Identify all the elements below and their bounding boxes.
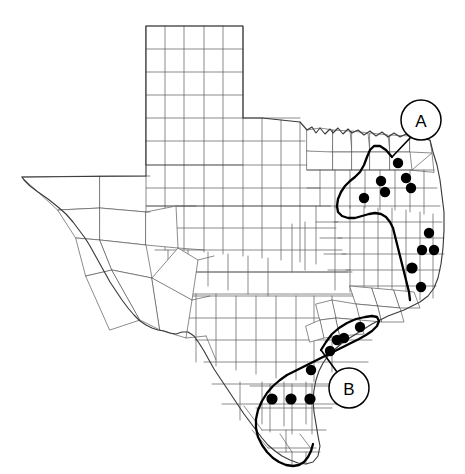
occurrence-dot	[359, 193, 369, 203]
occurrence-dot	[266, 393, 277, 404]
callout-b-label: B	[343, 380, 354, 399]
texas-distribution-map: A B	[0, 0, 465, 474]
callout-a-label: A	[415, 112, 427, 131]
occurrence-dot	[355, 322, 365, 332]
occurrence-dot	[306, 365, 316, 375]
occurrence-dot	[406, 262, 417, 273]
occurrence-dot	[376, 176, 386, 186]
occurrence-dot	[285, 393, 296, 404]
occurrence-dot	[380, 187, 390, 197]
occurrence-dot	[304, 393, 315, 404]
occurrence-dot	[401, 173, 411, 183]
occurrence-dot	[406, 183, 416, 193]
occurrence-dot	[332, 335, 342, 345]
occurrence-dot	[429, 245, 439, 255]
occurrence-dot	[416, 282, 426, 292]
occurrence-dot	[424, 228, 434, 238]
occurrence-dot	[325, 346, 335, 356]
occurrence-dot	[417, 245, 427, 255]
occurrence-dot	[393, 158, 403, 168]
panhandle-counties	[146, 26, 243, 165]
map-container: A B	[0, 0, 465, 474]
